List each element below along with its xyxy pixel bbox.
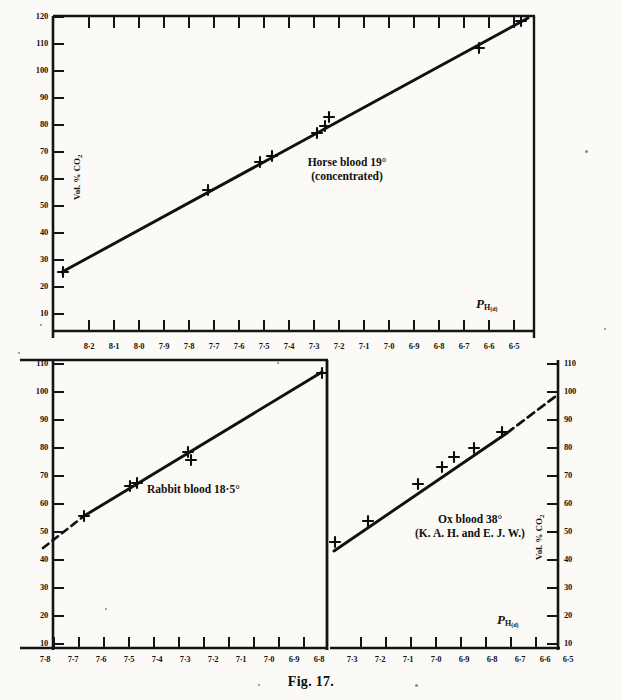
y-tick-label: 40 [564, 555, 594, 564]
x-tick-mark-top [213, 16, 215, 28]
paper-fleck [415, 684, 418, 687]
y-tick-label: 100 [564, 387, 594, 396]
y-tick-mark [53, 419, 64, 421]
x-tick-label: 7·6 [234, 342, 245, 351]
paper-fleck [40, 324, 42, 326]
x-tick-mark [163, 320, 165, 331]
y-tick-mark [53, 587, 64, 589]
paper-fleck [604, 328, 606, 330]
ph-subscript-2: (d) [511, 622, 518, 628]
y-tick-mark [53, 43, 64, 45]
y-tick-label: 100 [18, 387, 48, 396]
x-tick-label: 7·7 [209, 342, 220, 351]
x-tick-label: 6·7 [515, 655, 526, 664]
x-tick-label: 7·0 [264, 655, 275, 664]
x-tick-mark [53, 637, 55, 648]
x-tick-mark [88, 320, 90, 331]
x-tick-mark [460, 637, 462, 648]
y-tick-label: 50 [564, 527, 594, 536]
y-tick-label: 20 [564, 611, 594, 620]
x-tick-label: 6·7 [459, 342, 470, 351]
x-tick-mark [178, 637, 180, 648]
y-axis-title-text: Vol. % CO [72, 158, 82, 200]
x-tick-label: 7·1 [403, 655, 414, 664]
x-tick-label: 7·4 [284, 342, 295, 351]
y-tick-mark [53, 559, 64, 561]
y-tick-mark [53, 205, 64, 207]
x-tick-mark [413, 320, 415, 331]
y-tick-label: 90 [18, 415, 48, 424]
y-tick-mark [53, 259, 64, 261]
x-tick-label: 7·4 [152, 655, 163, 664]
y-tick-mark [53, 447, 64, 449]
y-tick-label: 30 [18, 255, 48, 264]
x-tick-label: 7·1 [236, 655, 247, 664]
x-tick-label: 6·9 [409, 342, 420, 351]
x-tick-mark [278, 637, 280, 648]
rabbit-blood-label-line1: Rabbit blood 18·5° [147, 482, 307, 496]
y-tick-mark [53, 151, 64, 153]
x-tick-label: 6·6 [540, 655, 551, 664]
horse-blood-label-line2: (concentrated) [272, 169, 422, 183]
figure-17: 120 110 100 90 80 70 60 50 40 30 20 10 V… [0, 0, 622, 700]
x-tick-label: 7·2 [208, 655, 219, 664]
y-tick-mark [547, 475, 558, 477]
y-tick-label: 10 [18, 309, 48, 318]
x-tick-label: 6·8 [487, 655, 498, 664]
y-tick-label: 30 [564, 583, 594, 592]
x-tick-mark [535, 637, 537, 648]
x-tick-mark [253, 637, 255, 648]
x-tick-mark [385, 637, 387, 648]
x-tick-mark-top [463, 16, 465, 28]
y-tick-label: 70 [18, 471, 48, 480]
x-tick-label: 6·8 [314, 655, 325, 664]
x-tick-mark [263, 320, 265, 331]
x-tick-mark [188, 320, 190, 331]
y-tick-mark [53, 70, 64, 72]
x-tick-mark [435, 637, 437, 648]
y-tick-mark [53, 232, 64, 234]
y-tick-mark [53, 313, 64, 315]
horse-blood-annotation: Horse blood 19° (concentrated) [272, 155, 422, 184]
x-tick-label: 8·0 [134, 342, 145, 351]
x-tick-mark [288, 320, 290, 331]
y-tick-label: 70 [18, 147, 48, 156]
ph-subscript-2: (d) [490, 306, 497, 312]
x-tick-mark-top [288, 16, 290, 28]
y-tick-mark [53, 363, 64, 365]
x-tick-label: 8·1 [109, 342, 120, 351]
rabbit-blood-series [43, 368, 327, 548]
x-tick-mark-top [413, 16, 415, 28]
x-tick-label: 7·8 [40, 655, 51, 664]
y-tick-mark [547, 559, 558, 561]
y-tick-label: 100 [18, 66, 48, 75]
x-tick-mark-top [313, 16, 315, 28]
x-tick-label: 7·3 [180, 655, 191, 664]
x-tick-label: 6·5 [509, 342, 520, 351]
y-tick-mark [53, 615, 64, 617]
x-tick-mark [363, 320, 365, 331]
x-tick-label: 6·9 [459, 655, 470, 664]
y-tick-mark [53, 97, 64, 99]
x-tick-mark [113, 320, 115, 331]
y-tick-label: 70 [564, 471, 594, 480]
paper-fleck [18, 352, 20, 354]
x-tick-mark-top [88, 16, 90, 28]
y-tick-label: 120 [18, 12, 48, 21]
x-tick-mark [153, 637, 155, 648]
x-tick-mark [338, 320, 340, 331]
y-tick-mark [547, 643, 558, 645]
x-tick-mark [78, 637, 80, 648]
x-tick-label: 7·7 [68, 655, 79, 664]
x-tick-mark-top [488, 16, 490, 28]
y-tick-mark [547, 447, 558, 449]
x-tick-mark-top [238, 16, 240, 28]
x-tick-mark-top [363, 16, 365, 28]
x-tick-mark [103, 637, 105, 648]
x-tick-label: 6·6 [484, 342, 495, 351]
x-tick-label: 7·9 [159, 342, 170, 351]
x-tick-label: 7·2 [375, 655, 386, 664]
ox-blood-label-line2: (K. A. H. and E. J. W.) [390, 526, 550, 540]
x-tick-label: 7·8 [184, 342, 195, 351]
x-tick-mark-top [338, 16, 340, 28]
